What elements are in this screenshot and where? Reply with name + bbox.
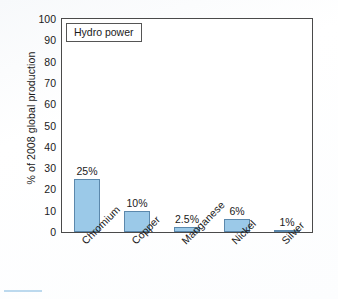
- y-tick-label: 10: [16, 205, 56, 216]
- y-tick-label: 50: [16, 120, 56, 131]
- bar-slot: 25%: [74, 19, 100, 232]
- bar-slot: 10%: [124, 19, 150, 232]
- y-tick-label: 40: [16, 142, 56, 153]
- bar-value-label: 10%: [126, 197, 147, 209]
- bars-layer: 25%10%2.5%6%1%: [62, 19, 312, 232]
- bar-value-label: 6%: [229, 205, 244, 217]
- y-tick-label: 90: [16, 35, 56, 46]
- y-tick-label: 60: [16, 99, 56, 110]
- scan-artifact-line: [4, 290, 42, 292]
- bar-slot: 6%: [224, 19, 250, 232]
- y-tick-label: 0: [16, 227, 56, 238]
- y-tick-label: 20: [16, 184, 56, 195]
- y-tick-label: 30: [16, 163, 56, 174]
- bar-slot: 1%: [274, 19, 300, 232]
- bar-value-label: 25%: [76, 165, 97, 177]
- bar-chart-figure: % of 2008 global production 010203040506…: [0, 0, 338, 299]
- y-tick-label: 100: [16, 14, 56, 25]
- legend-hydro-power: Hydro power: [66, 23, 142, 42]
- y-tick-label: 70: [16, 78, 56, 89]
- bar-slot: 2.5%: [174, 19, 200, 232]
- y-tick-label: 80: [16, 56, 56, 67]
